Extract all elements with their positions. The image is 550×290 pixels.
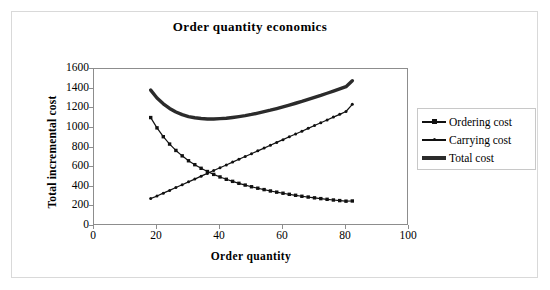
y-tick-mark bbox=[89, 186, 93, 187]
data-point-marker bbox=[338, 113, 341, 116]
data-point-marker bbox=[244, 155, 247, 158]
data-point-marker bbox=[237, 158, 240, 161]
x-tick-label: 80 bbox=[325, 229, 365, 241]
data-point-marker bbox=[319, 197, 322, 200]
data-point-marker bbox=[200, 175, 203, 178]
data-point-marker bbox=[199, 167, 202, 170]
data-point-marker bbox=[218, 175, 221, 178]
y-tick-mark bbox=[89, 107, 93, 108]
x-axis-title: Order quantity bbox=[93, 250, 409, 262]
legend-key-total-cost bbox=[422, 151, 446, 165]
legend-item-ordering-cost[interactable]: Ordering cost bbox=[422, 113, 532, 131]
data-point-marker bbox=[325, 198, 328, 201]
data-point-marker bbox=[155, 126, 158, 129]
x-tick-label: 0 bbox=[73, 229, 113, 241]
chart-legend: Ordering cost Carrying cost Total cost bbox=[417, 108, 536, 170]
data-point-marker bbox=[288, 135, 291, 138]
legend-item-total-cost[interactable]: Total cost bbox=[422, 149, 532, 167]
data-point-marker bbox=[174, 149, 177, 152]
data-point-marker bbox=[181, 183, 184, 186]
legend-dot-marker-icon bbox=[433, 138, 436, 141]
data-point-marker bbox=[162, 135, 165, 138]
data-point-marker bbox=[307, 195, 310, 198]
data-point-marker bbox=[282, 138, 285, 141]
data-point-marker bbox=[269, 189, 272, 192]
plot-area bbox=[93, 68, 408, 225]
legend-label-total-cost: Total cost bbox=[449, 152, 494, 165]
data-point-marker bbox=[326, 118, 329, 121]
y-tick-mark bbox=[89, 68, 93, 69]
data-point-marker bbox=[168, 142, 171, 145]
data-point-marker bbox=[193, 178, 196, 181]
data-point-marker bbox=[212, 173, 215, 176]
x-tick-label: 20 bbox=[136, 229, 176, 241]
data-point-marker bbox=[275, 190, 278, 193]
series-line-ordering-cost bbox=[151, 118, 353, 202]
data-point-marker bbox=[313, 196, 316, 199]
data-point-marker bbox=[193, 163, 196, 166]
y-tick-mark bbox=[89, 127, 93, 128]
data-point-marker bbox=[237, 182, 240, 185]
data-point-marker bbox=[300, 195, 303, 198]
data-point-marker bbox=[338, 199, 341, 202]
legend-label-ordering-cost: Ordering cost bbox=[449, 116, 512, 129]
data-point-marker bbox=[263, 147, 266, 150]
data-point-marker bbox=[344, 199, 347, 202]
chart-figure: Order quantity economics Total increment… bbox=[0, 0, 550, 290]
data-point-marker bbox=[351, 103, 354, 106]
data-point-marker bbox=[281, 192, 284, 195]
x-tick-label: 40 bbox=[199, 229, 239, 241]
data-point-marker bbox=[212, 169, 215, 172]
data-point-marker bbox=[219, 166, 222, 169]
data-point-marker bbox=[156, 195, 159, 198]
data-point-marker bbox=[269, 144, 272, 147]
legend-item-carrying-cost[interactable]: Carrying cost bbox=[422, 131, 532, 149]
plot-svg bbox=[94, 69, 409, 226]
data-point-marker bbox=[225, 163, 228, 166]
data-point-marker bbox=[351, 199, 354, 202]
data-point-marker bbox=[206, 172, 209, 175]
x-tick-mark bbox=[156, 225, 157, 229]
data-point-marker bbox=[174, 186, 177, 189]
data-point-marker bbox=[187, 180, 190, 183]
data-point-marker bbox=[231, 161, 234, 164]
x-tick-label: 100 bbox=[388, 229, 428, 241]
x-tick-mark bbox=[93, 225, 94, 229]
series-line-total-cost bbox=[151, 81, 353, 119]
data-point-marker bbox=[307, 127, 310, 130]
data-point-marker bbox=[262, 188, 265, 191]
legend-square-marker-icon bbox=[432, 119, 437, 124]
x-tick-mark bbox=[219, 225, 220, 229]
data-point-marker bbox=[162, 192, 165, 195]
data-point-marker bbox=[181, 154, 184, 157]
x-tick-label: 60 bbox=[262, 229, 302, 241]
data-point-marker bbox=[168, 189, 171, 192]
data-point-marker bbox=[250, 152, 253, 155]
data-point-marker bbox=[294, 132, 297, 135]
y-tick-mark bbox=[89, 166, 93, 167]
legend-key-carrying-cost bbox=[422, 133, 446, 147]
data-point-marker bbox=[244, 183, 247, 186]
data-point-marker bbox=[300, 130, 303, 133]
y-tick-mark bbox=[89, 88, 93, 89]
legend-thick-line-icon bbox=[422, 156, 446, 160]
data-point-marker bbox=[345, 110, 348, 113]
data-point-marker bbox=[225, 178, 228, 181]
y-tick-mark bbox=[89, 147, 93, 148]
data-point-marker bbox=[149, 197, 152, 200]
data-point-marker bbox=[250, 185, 253, 188]
data-point-marker bbox=[332, 116, 335, 119]
data-point-marker bbox=[231, 180, 234, 183]
data-point-marker bbox=[288, 193, 291, 196]
data-point-marker bbox=[187, 159, 190, 162]
data-point-marker bbox=[256, 149, 259, 152]
data-point-marker bbox=[313, 124, 316, 127]
x-tick-mark bbox=[345, 225, 346, 229]
data-point-marker bbox=[294, 194, 297, 197]
data-point-marker bbox=[319, 121, 322, 124]
x-tick-mark bbox=[408, 225, 409, 229]
data-point-marker bbox=[275, 141, 278, 144]
series-layer bbox=[149, 81, 354, 203]
y-tick-mark bbox=[89, 205, 93, 206]
data-point-marker bbox=[256, 187, 259, 190]
